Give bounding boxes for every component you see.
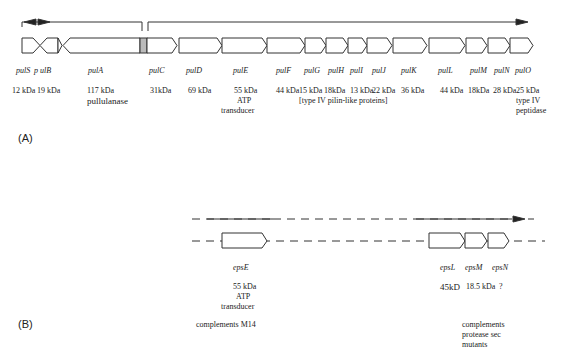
gene-epsM [465,233,487,248]
size-pulS: 12 kDa [12,86,35,96]
gene-pulF [267,38,305,53]
gene-label-pulC: pulC [149,66,165,76]
size-pulO: 25 kDa [516,86,539,96]
size-epsL: 45kD [440,282,460,292]
size-epsE: 55 kDa [233,282,256,292]
gene-pulC [147,38,177,53]
size-pulM: 18kDa [468,86,489,96]
size-pulL: 44 kDa [440,86,463,96]
panel-label-b: (B) [18,318,33,330]
function-pulA: pullulanase [87,96,128,106]
transcript-arrow-pulC-pulO [148,19,528,31]
transcript-arrowhead-b [513,216,525,222]
function-pulE-1: ATP [237,96,251,106]
gene-label-pulH: pulH [328,66,344,76]
gene-label-pulE: pulE [233,66,248,76]
gene-pulN [488,38,510,53]
size-pulD: 69 kDa [188,86,211,96]
gene-pulE [222,38,267,53]
size-pulF: 44 kDa [276,86,299,96]
panel-label-a: (A) [18,132,33,144]
group-note-pilin: [type IV pilin-like proteins] [299,96,388,106]
size-pulI: 13 kDa [350,86,373,96]
gene-pulS [22,38,40,53]
size-pulJ: 22 kDa [372,86,395,96]
size-pulB: 19 kDa [37,86,60,96]
gene-pulA-body [63,38,140,53]
note-complements-m14: complements M14 [196,320,256,330]
gene-pulO [510,38,533,53]
note-complements-3: mutants [462,340,487,350]
gene-label-pulK: pulK [401,66,417,76]
gene-epsN [488,233,509,248]
transcript-arrow-pulS-pulA [22,19,142,31]
gene-pulB [40,38,58,53]
gene-pulH [326,38,348,53]
gene-epsL [429,233,465,248]
function-pulO-1: type IV [516,96,540,106]
gene-label-pulL: pulL [438,66,453,76]
gene-pulA [58,38,62,53]
gene-label-pulN: pulN [494,66,510,76]
gene-label-pulF: pulF [276,66,291,76]
gene-label-epsL: epsL [440,263,455,273]
size-pulK: 36 kDa [401,86,424,96]
signal-sequence-hatched [140,38,147,53]
function-epsE-1: ATP [236,292,250,302]
size-pulG: 15 kDa [299,86,322,96]
note-complements-2: protease sec [462,330,501,340]
gene-label-pulA: pulA [88,66,103,76]
gene-epsE [222,233,267,248]
gene-pulM [466,38,487,53]
function-pulE-2: transducer [221,106,254,116]
size-epsN: ? [499,282,503,292]
size-pulC: 31kDa [150,86,171,96]
gene-label-epsM: epsM [465,263,482,273]
gene-label-pulI: pulI [350,66,363,76]
gene-pulI [348,38,367,53]
gene-label-epsN: epsN [492,263,508,273]
gene-pulL [429,38,465,53]
size-pulA: 117 kDa [87,86,114,96]
note-complements-1: complements [462,320,505,330]
gene-label-pulB: p ulB [34,66,51,76]
size-epsM: 18.5 kDa [466,282,495,292]
gene-pulJ [367,38,392,53]
gene-label-pulO: pulO [515,66,531,76]
gene-label-pulS: pulS [16,66,30,76]
gene-pulD [179,38,222,53]
size-pulE: 55 kDa [234,86,257,96]
function-epsE-2: transducer [221,302,254,312]
size-pulN: 28 kDa [493,86,516,96]
gene-label-pulJ: pulJ [372,66,386,76]
gene-map-diagram [0,0,561,357]
gene-label-pulM: pulM [470,66,487,76]
gene-pulK [393,38,427,53]
gene-label-pulG: pulG [304,66,320,76]
gene-label-epsE: epsE [233,263,249,273]
size-pulH: 18kDa [324,86,345,96]
gene-pulG [305,38,326,53]
gene-label-pulD: pulD [186,66,202,76]
function-pulO-2: peptidase [516,106,546,116]
